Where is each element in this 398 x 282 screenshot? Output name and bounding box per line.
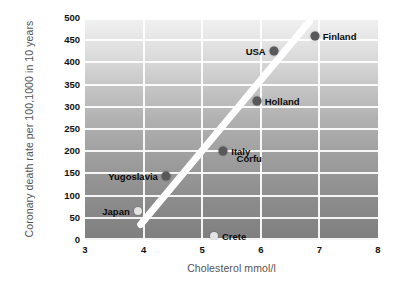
x-axis-title: Cholesterol mmol/l xyxy=(85,262,378,274)
x-axis-tick-labels: 345678 xyxy=(0,0,398,282)
x-tick-7: 7 xyxy=(309,244,329,255)
x-tick-5: 5 xyxy=(192,244,212,255)
x-tick-6: 6 xyxy=(251,244,271,255)
x-tick-4: 4 xyxy=(134,244,154,255)
x-tick-8: 8 xyxy=(368,244,388,255)
chart-figure: Coronary death rate per 100,1000 in 10 y… xyxy=(0,0,398,282)
x-tick-3: 3 xyxy=(75,244,95,255)
